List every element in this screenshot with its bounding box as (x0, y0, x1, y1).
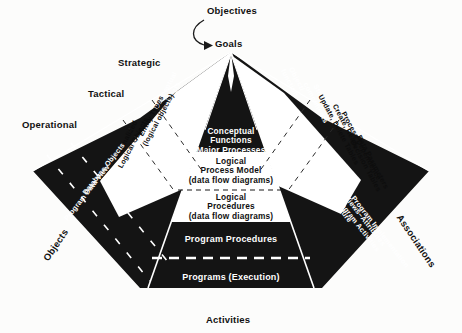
row-line: Major Processes (181, 146, 281, 155)
objectives-to-goals-arrow-icon (194, 20, 205, 45)
level-strategic: Strategic (118, 58, 160, 69)
page-title: Objectives (207, 6, 257, 17)
row-line: (data flow diagrams) (181, 212, 281, 221)
apex-label-goals: Goals (215, 39, 242, 50)
level-tactical: Tactical (88, 89, 124, 100)
center-row-conceptual-functions: Conceptual Functions Major Processes (181, 127, 281, 155)
arrow-head-icon (204, 41, 213, 50)
bottom-label-activities: Activities (206, 315, 250, 326)
center-row-logical-procedures: Logical Procedures (data flow diagrams) (181, 193, 281, 221)
center-row-logical-process-model: Logical Process Model (data flow diagram… (181, 157, 281, 185)
diagram-canvas: Objectives Goals Activities Strategic Ta… (0, 0, 462, 333)
center-row-program-procedures: Program Procedures (171, 234, 291, 244)
level-operational: Operational (22, 120, 77, 131)
center-row-programs-execution: Programs (Execution) (171, 272, 291, 282)
row-line: (data flow diagrams) (181, 176, 281, 185)
